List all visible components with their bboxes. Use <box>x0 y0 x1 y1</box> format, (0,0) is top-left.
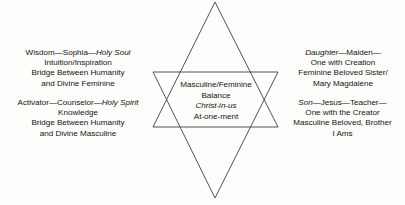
upper-left-line-2: Bridge Between Humanity <box>2 68 154 78</box>
upper-left-text-block: Wisdom—Sophia—Holy Soul Intuition/Inspir… <box>2 48 154 89</box>
lower-left-heading-italic: Holy Spirit <box>102 98 139 107</box>
center-line-2: Balance <box>157 91 275 102</box>
lower-left-line-1: Knowledge <box>0 108 156 118</box>
upper-left-line-3: and Divine Feminine <box>2 79 154 89</box>
lower-left-heading-plain: Activator—Counselor— <box>18 98 102 107</box>
upper-right-heading: Daughter—Maiden— <box>283 48 403 58</box>
upper-right-text-block: Daughter—Maiden— One with Creation Femin… <box>283 48 403 89</box>
center-line-1: Masculine/Feminine <box>157 80 275 91</box>
lower-right-heading: Son—Jesus—Teacher— <box>281 98 404 108</box>
center-line-3: Christ-in-us <box>157 101 275 112</box>
center-text-block: Masculine/Feminine Balance Christ-in-us … <box>157 80 275 122</box>
lower-left-line-2: Bridge Between Humanity <box>0 118 156 128</box>
center-line-4: At-one-ment <box>157 112 275 123</box>
lower-left-text-block: Activator—Counselor—Holy Spirit Knowledg… <box>0 98 156 139</box>
upper-right-line-1: One with Creation <box>283 58 403 68</box>
upper-left-heading: Wisdom—Sophia—Holy Soul <box>2 48 154 58</box>
lower-right-line-1: One with the Creator <box>281 108 404 118</box>
upper-left-line-1: Intuition/Inspiration <box>2 58 154 68</box>
lower-right-line-3: I Ams <box>281 129 404 139</box>
lower-left-heading: Activator—Counselor—Holy Spirit <box>0 98 156 108</box>
star-of-david-diagram: Wisdom—Sophia—Holy Soul Intuition/Inspir… <box>0 0 405 205</box>
upper-right-line-3: Mary Magdalene <box>283 79 403 89</box>
upper-left-heading-plain: Wisdom—Sophia— <box>26 48 96 57</box>
upper-right-line-2: Feminine Beloved Sister/ <box>283 68 403 78</box>
upper-left-heading-italic: Holy Soul <box>96 48 130 57</box>
upper-right-heading-plain: —Maiden— <box>338 48 381 57</box>
lower-left-line-3: and Divine Masculine <box>0 129 156 139</box>
upper-right-heading-italic: Daughter <box>305 48 338 57</box>
lower-right-heading-italic: Son <box>298 98 312 107</box>
lower-right-line-2: Masculine Beloved, Brother <box>281 118 404 128</box>
lower-right-heading-plain: —Jesus—Teacher— <box>313 98 387 107</box>
lower-right-text-block: Son—Jesus—Teacher— One with the Creator … <box>281 98 404 139</box>
